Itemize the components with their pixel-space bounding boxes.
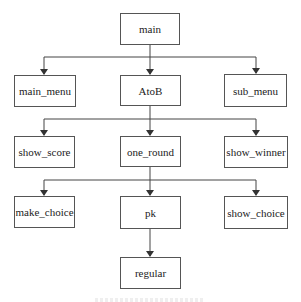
node-show-score: show_score [14,136,75,168]
node-label: show_winner [226,146,285,158]
edge-group-main [44,45,256,74]
node-one-round: one_round [120,136,181,167]
node-main: main [120,13,180,45]
call-tree-diagram: main main_menu AtoB sub_menu show_score … [0,0,301,302]
node-label: show_choice [227,207,284,219]
caption-fragment [95,298,205,302]
node-regular: regular [120,257,181,289]
node-label: make_choice [15,206,73,218]
node-label: show_score [19,146,71,158]
node-label: pk [145,207,156,219]
node-label: one_round [127,146,174,158]
node-label: main [139,23,161,35]
node-label: regular [135,267,166,279]
node-label: AtoB [139,85,163,97]
node-sub-menu: sub_menu [224,74,287,107]
node-show-winner: show_winner [224,136,288,168]
node-main-menu: main_menu [14,75,76,107]
edge-group-atob [44,106,256,135]
node-make-choice: make_choice [14,196,75,228]
node-show-choice: show_choice [224,196,288,229]
node-label: main_menu [19,85,71,97]
figure-caption-clipped [95,298,205,302]
edge-group-one-round [44,167,256,195]
node-atob: AtoB [120,75,181,106]
node-label: sub_menu [233,85,278,97]
node-pk: pk [120,196,181,229]
